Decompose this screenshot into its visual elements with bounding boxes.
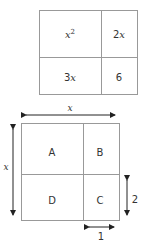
cell-3x: 3x	[64, 72, 76, 83]
region-d: D	[48, 195, 56, 206]
cell-x-squared: x2	[65, 28, 75, 40]
top-dimension-label: x	[67, 103, 72, 113]
region-c: C	[97, 195, 104, 206]
cell-exponent: 2	[71, 28, 75, 36]
region-b: B	[97, 147, 104, 158]
cell-var: x	[119, 29, 125, 40]
cell-2x: 2x	[113, 29, 125, 40]
cell-var: x	[70, 72, 76, 83]
top-table-grid	[40, 11, 138, 95]
square-grid	[22, 124, 120, 221]
cell-6: 6	[116, 72, 122, 83]
right-dimension-label: 2	[132, 194, 138, 205]
bottom-dimension-label: 1	[98, 231, 104, 242]
left-dimension-label: x	[3, 162, 8, 172]
region-a: A	[49, 147, 56, 158]
